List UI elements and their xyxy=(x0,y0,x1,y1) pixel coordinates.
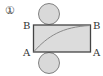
cylinder-net-diagram: ① B B A A xyxy=(0,0,103,76)
lateral-surface-rect xyxy=(34,25,91,52)
bottom-base-circle xyxy=(39,53,60,74)
label-top-right: B xyxy=(93,20,100,31)
label-bottom-left: A xyxy=(22,47,31,58)
label-top-left: B xyxy=(23,20,30,31)
top-base-circle xyxy=(39,4,60,25)
label-bottom-right: A xyxy=(92,47,101,58)
figure-number: ① xyxy=(5,4,15,17)
